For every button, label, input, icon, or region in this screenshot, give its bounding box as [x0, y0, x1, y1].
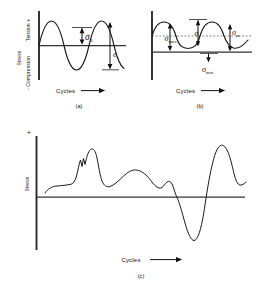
panel-a-sigma-r-arrow-down [108, 64, 113, 70]
panel-c-y-axis-label: Stress [24, 176, 30, 191]
panel-c-y-axis-upper-label: + [27, 129, 31, 136]
panel-a: Stress Tension + - Compression σa σr [16, 11, 126, 109]
figure-canvas: Stress Tension + - Compression σa σr [0, 0, 269, 287]
panel-c-x-axis-label: Cycles [121, 257, 140, 263]
panel-a-sigma-r-label: σr [113, 50, 119, 60]
panel-c-stress-curve [45, 145, 246, 240]
panel-b-sigma-max-arrow-down [168, 46, 172, 51]
panel-b-sigma-min-arrow-down [206, 57, 210, 62]
panel-a-caption: (a) [76, 103, 83, 109]
panel-b-sigma-m-label: σm [232, 28, 240, 38]
fatigue-stress-cycles-figure: Stress Tension + - Compression σa σr [0, 0, 269, 287]
panel-b-x-axis-label: Cycles [176, 88, 195, 94]
panel-b-sigma-r-label: σr [195, 29, 201, 39]
svg-text:σm: σm [232, 28, 240, 38]
panel-a-sigma-a-subscript: a [90, 36, 93, 43]
panel-a-y-axis-lower-label: - Compression [25, 56, 31, 90]
panel-a-sigma-r-arrow-up [108, 22, 113, 28]
panel-b: σmax σr σm σmin [152, 11, 252, 109]
panel-a-sigma-a-label: σa [85, 31, 93, 43]
panel-b-sigma-min-label: σmin [202, 65, 214, 75]
svg-text:σr: σr [195, 29, 201, 39]
panel-c: + Stress Cycles (c) [24, 129, 246, 279]
svg-text:σa: σa [85, 31, 93, 43]
panel-a-sigma-r-subscript: r [117, 55, 119, 60]
svg-text:σr: σr [113, 50, 119, 60]
panel-a-x-axis-label: Cycles [56, 88, 75, 94]
panel-a-y-axis-upper-label: Tension + [25, 19, 31, 41]
panel-b-sigma-m-arrow-down [228, 46, 232, 51]
svg-text:σmin: σmin [202, 65, 214, 75]
panel-b-sigma-r-arrow-up [196, 20, 200, 25]
panel-b-caption: (b) [197, 103, 204, 109]
panel-a-sigma-a-arrow-up [80, 28, 85, 33]
panel-b-sigma-max-subscript: max [169, 39, 178, 44]
panel-a-y-axis-label: Stress [16, 50, 22, 65]
panel-b-sigma-min-subscript: min [206, 70, 214, 75]
panel-b-sigma-m-subscript: m [236, 33, 240, 38]
panel-c-caption: (c) [138, 273, 145, 279]
panel-a-sigma-a-arrow-down [80, 39, 85, 44]
